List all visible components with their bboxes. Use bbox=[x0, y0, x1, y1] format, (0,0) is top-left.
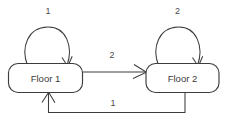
state-node-floor2[interactable]: Floor 2 bbox=[146, 64, 219, 93]
state-node-floor2-label: Floor 2 bbox=[168, 73, 198, 84]
edge-label-floor1-to-floor2: 2 bbox=[109, 50, 114, 60]
edge-label-floor2-to-floor1: 1 bbox=[110, 98, 115, 108]
floor2-to-floor1-line bbox=[49, 93, 186, 113]
state-diagram-svg: Floor 1 Floor 2 1 2 2 1 bbox=[0, 0, 229, 121]
state-node-floor1[interactable]: Floor 1 bbox=[9, 64, 83, 93]
edge-label-self-loop-floor1: 1 bbox=[45, 6, 50, 16]
state-node-floor1-label: Floor 1 bbox=[31, 73, 61, 84]
edge-label-self-loop-floor2: 2 bbox=[175, 6, 180, 16]
self-loop-floor1-arc bbox=[25, 27, 69, 66]
self-loop-floor2-arc bbox=[156, 27, 200, 66]
state-diagram-canvas: Floor 1 Floor 2 1 2 2 1 bbox=[0, 0, 229, 121]
self-loop-floor2-edge bbox=[156, 27, 203, 67]
floor1-to-floor2-edge bbox=[83, 65, 147, 79]
self-loop-floor1-edge bbox=[25, 27, 72, 67]
